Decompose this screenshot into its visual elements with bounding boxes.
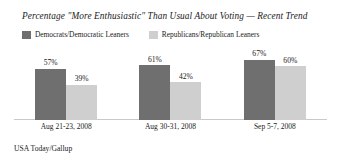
bar-groups: 57% 39% 61% 42%	[14, 46, 327, 120]
bar-group: 57% 39%	[35, 46, 97, 120]
legend-label-democrats: Democrats/Democratic Leaners	[35, 30, 129, 39]
bar-wrap-republicans: 39%	[66, 46, 97, 120]
bar-group: 67% 60%	[244, 46, 306, 120]
bar-republicans	[275, 66, 306, 120]
bar-democrats	[244, 60, 275, 120]
bar-democrats	[139, 65, 170, 120]
bar-democrats	[35, 69, 66, 120]
category-axis-labels: Aug 21-23, 2008 Aug 30-31, 2008 Sep 5-7,…	[14, 122, 327, 131]
bar-value-label: 67%	[252, 50, 266, 58]
bar-republicans	[170, 82, 201, 120]
plot-area: 57% 39% 61% 42%	[0, 46, 341, 120]
bar-value-label: 60%	[283, 57, 297, 65]
bar-value-label: 61%	[148, 56, 162, 64]
source-attribution: USA Today/Gallup	[14, 144, 72, 153]
category-label: Aug 30-31, 2008	[139, 122, 201, 131]
bar-value-label: 42%	[179, 73, 193, 81]
category-label: Aug 21-23, 2008	[35, 122, 97, 131]
chart-title: Percentage "More Enthusiastic" Than Usua…	[22, 11, 322, 22]
bar-group: 61% 42%	[139, 46, 201, 120]
bar-republicans	[66, 85, 97, 120]
enthusiasm-bar-chart: Percentage "More Enthusiastic" Than Usua…	[0, 0, 341, 163]
legend-label-republicans: Republicans/Republican Leaners	[162, 30, 259, 39]
chart-legend: Democrats/Democratic Leaners Republicans…	[22, 30, 259, 39]
bar-wrap-democrats: 57%	[35, 46, 66, 120]
legend-item-democrats: Democrats/Democratic Leaners	[22, 30, 129, 39]
bar-value-label: 57%	[44, 59, 58, 67]
legend-swatch-democrats	[22, 31, 31, 39]
bar-wrap-democrats: 61%	[139, 46, 170, 120]
legend-item-republicans: Republicans/Republican Leaners	[149, 30, 259, 39]
bar-wrap-republicans: 60%	[275, 46, 306, 120]
bar-value-label: 39%	[75, 75, 89, 83]
bar-wrap-democrats: 67%	[244, 46, 275, 120]
category-label: Sep 5-7, 2008	[244, 122, 306, 131]
bar-wrap-republicans: 42%	[170, 46, 201, 120]
legend-swatch-republicans	[149, 31, 158, 39]
